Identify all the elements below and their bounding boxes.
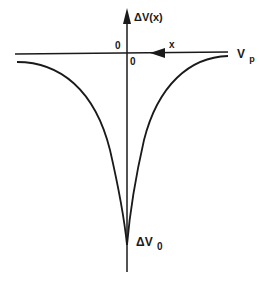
origin-label-left: 0 [115,40,121,51]
y-axis-label: ΔV(x) [134,11,163,23]
minimum-label-sub: 0 [157,241,163,252]
y-axis-arrow-icon [123,8,131,24]
potential-curve-left [17,62,127,245]
vp-label: V p [237,47,255,64]
potential-curve-right [127,56,228,245]
minimum-label-main: ΔV [136,235,153,249]
reference-line-vp [15,52,228,54]
vp-label-sub: p [249,54,255,64]
x-axis-arrow-icon [150,48,165,58]
potential-diagram: ΔV(x) x 0 0 V p ΔV 0 [0,0,259,286]
x-axis-label: x [169,39,175,50]
minimum-label: ΔV 0 [136,235,163,252]
origin-label-below: 0 [130,56,136,67]
vp-label-main: V [237,47,245,61]
